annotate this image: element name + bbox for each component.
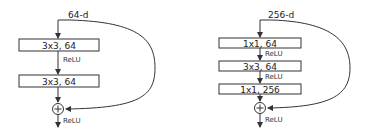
left-relu-1: ReLU (63, 56, 81, 64)
left-layer-2-label: 3x3, 64 (42, 77, 76, 87)
left-layer-1-label: 3x3, 64 (42, 41, 76, 51)
right-addition-node (255, 103, 266, 114)
right-layer-1: 1x1, 64 (219, 38, 301, 49)
left-residual-block: 64-d 3x3, 64 ReLU 3x3, 64 ReLU (19, 10, 155, 127)
left-shortcut-connection (58, 20, 155, 109)
right-layer-3: 1x1, 256 (219, 84, 301, 95)
right-layer-3-label: 1x1, 256 (240, 85, 280, 95)
right-relu-1: ReLU (265, 50, 283, 58)
left-input-dim-label: 64-d (68, 10, 88, 20)
right-relu-3: ReLU (265, 116, 283, 124)
right-layer-2-label: 3x3, 64 (243, 62, 277, 72)
left-relu-2: ReLU (63, 117, 81, 125)
right-input-dim-label: 256-d (268, 10, 294, 20)
right-layer-2: 3x3, 64 (219, 61, 301, 72)
right-relu-2: ReLU (265, 73, 283, 81)
right-residual-block: 256-d 1x1, 64 ReLU 3x3, 64 ReLU 1x1, 256 (219, 10, 350, 127)
residual-blocks-diagram: 64-d 3x3, 64 ReLU 3x3, 64 ReLU 256-d (0, 0, 366, 138)
left-addition-node (53, 104, 64, 115)
left-layer-1: 3x3, 64 (19, 39, 99, 51)
left-layer-2: 3x3, 64 (19, 75, 99, 87)
right-layer-1-label: 1x1, 64 (243, 39, 277, 49)
